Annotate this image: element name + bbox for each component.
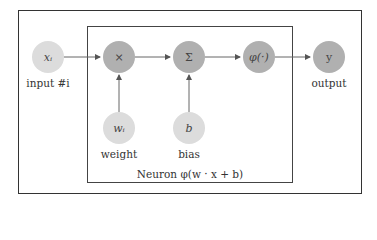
bias-node: b: [173, 112, 205, 144]
output-label: output: [311, 77, 346, 89]
bias-label: bias: [178, 148, 200, 160]
multiply-node: ×: [103, 41, 135, 73]
output-node: y: [313, 41, 345, 73]
activation-node: φ(·): [243, 41, 275, 73]
sum-node: Σ: [173, 41, 205, 73]
weight-label: weight: [101, 148, 137, 160]
input-node: xᵢ: [32, 41, 64, 73]
weight-node: wᵢ: [103, 112, 135, 144]
neuron-caption: Neuron φ(w · x + b): [137, 168, 243, 180]
input-label: input #i: [26, 77, 69, 89]
